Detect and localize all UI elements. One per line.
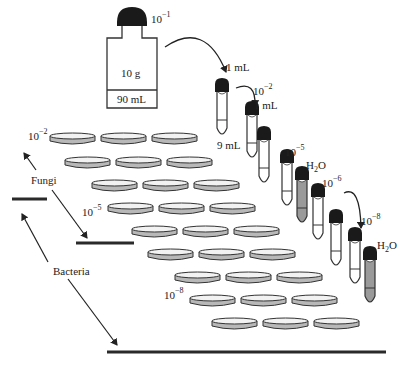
petri-plate [132,226,177,237]
petri-plate [212,318,257,329]
test-tube [363,246,377,302]
petri-plate [226,272,271,283]
tube-dilution-label-6: 10−6 [322,176,342,189]
test-tube [295,166,309,222]
test-tube [215,78,229,134]
tube-cap-icon [363,246,377,260]
petri-plate [183,226,228,237]
tube-dilution-label-2: 10−2 [253,84,273,97]
petri-plate [167,157,212,168]
test-tube [311,183,325,239]
petri-plate [277,272,322,283]
petri-plate [234,226,279,237]
fungi-label: Fungi [30,174,58,187]
petri-plate [175,272,220,283]
petri-plate [314,318,359,329]
bottle-cap-icon [117,7,147,26]
test-tube [257,126,271,182]
plate-row-label-1: 10−2 [28,129,48,142]
bacteria-arrow-down [68,279,117,345]
petri-plate [250,249,295,260]
tube-diluent-label: 9 mL [217,140,241,151]
transfer-label-1: 1 mL [226,62,250,73]
transfer-label-2: 1 mL [254,100,278,111]
diagram-canvas [0,0,411,365]
petri-plate [241,295,286,306]
diluent-volume-label: 90 mL [117,94,146,105]
fungi-arrow-up [24,153,36,170]
tube-cap-icon [329,209,343,223]
transfer-arrow-3 [344,192,361,228]
tube-dilution-label-5: 10−5 [285,145,305,158]
petri-plate [199,249,244,260]
petri-plate [101,133,146,144]
petri-plate [92,180,137,191]
petri-plate [210,203,255,214]
petri-plate [65,157,110,168]
tube-cap-icon [215,78,229,92]
tube-cap-icon [348,227,362,241]
sample-mass-label: 10 g [121,68,140,79]
petri-plate [108,203,153,214]
dilution-diagram: 10−1 10 g 90 mL 1 mL 10−2 1 mL 9 mL 10−5… [0,0,411,365]
dilution-tubes [215,78,377,302]
petri-plate [190,295,235,306]
test-tube [348,227,362,283]
plate-row-label-4: 10−5 [82,205,102,218]
petri-plate [152,133,197,144]
petri-plate [50,133,95,144]
plate-row-label-8: 10−8 [164,288,184,301]
petri-plate [292,295,337,306]
transfer-arrow-1 [165,38,226,72]
tube-dilution-label-8: 10−8 [361,214,381,227]
bottle-dilution-label: 10−1 [151,12,171,25]
petri-plate [143,180,188,191]
petri-plate [159,203,204,214]
petri-plate [116,157,161,168]
petri-plate [194,180,239,191]
petri-plate [263,318,308,329]
bacteria-label: Bacteria [52,265,91,278]
petri-plate [148,249,193,260]
test-tube [329,209,343,265]
water-label-1: H2O [306,160,326,174]
water-label-2: H2O [377,240,397,254]
tube-cap-icon [257,126,271,140]
bacteria-arrow-up [22,214,48,262]
